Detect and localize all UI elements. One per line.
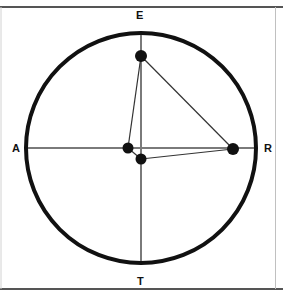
- segment-upper-to-center-left: [128, 56, 141, 148]
- point-upper: [135, 50, 147, 62]
- point-center-lower: [136, 154, 147, 165]
- segment-upper-to-right: [141, 56, 233, 149]
- figure-canvas: E T A R: [0, 0, 283, 299]
- vertex-label-r: R: [264, 143, 272, 154]
- point-right: [227, 143, 239, 155]
- vertex-label-e: E: [136, 10, 143, 21]
- point-center-left: [123, 143, 134, 154]
- vertex-label-t: T: [137, 276, 144, 287]
- segment-lower-to-right: [141, 149, 233, 159]
- vertex-label-a: A: [12, 143, 20, 154]
- geometry-diagram: [0, 0, 283, 299]
